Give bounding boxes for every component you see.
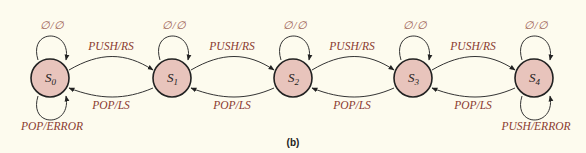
loop-label-s3: ∅/∅ bbox=[403, 19, 426, 31]
s4-bottom-loop bbox=[521, 96, 551, 120]
loop-label-s2: ∅/∅ bbox=[283, 19, 306, 31]
push-rs-label-1: PUSH/RS bbox=[208, 40, 255, 52]
self-loop-labels: ∅/∅ ∅/∅ ∅/∅ ∅/∅ ∅/∅ bbox=[40, 19, 547, 31]
pop-ls-label-3: POP/LS bbox=[453, 99, 492, 111]
push-rs-label-0: PUSH/RS bbox=[87, 40, 134, 52]
loop-label-s1: ∅/∅ bbox=[162, 19, 185, 31]
state-sub: 3 bbox=[414, 77, 420, 87]
push-rs-label-2: PUSH/RS bbox=[328, 40, 375, 52]
loop-label-s4: ∅/∅ bbox=[524, 19, 547, 31]
pop-ls-label-1: POP/LS bbox=[212, 99, 251, 111]
state-s2: S2 bbox=[274, 59, 312, 97]
s0-bottom-loop bbox=[37, 96, 67, 120]
state-sub: 1 bbox=[174, 77, 179, 87]
state-diagram: ∅/∅ ∅/∅ ∅/∅ ∅/∅ ∅/∅ POP/ERROR PUSH/ERROR… bbox=[0, 0, 586, 153]
state-s3: S3 bbox=[394, 59, 432, 97]
state-sub: 4 bbox=[536, 77, 541, 87]
state-sub: 2 bbox=[295, 77, 300, 87]
state-s0: S0 bbox=[31, 59, 69, 97]
state-s4: S4 bbox=[515, 59, 553, 97]
state-sub: 0 bbox=[52, 77, 57, 87]
state-s1: S1 bbox=[153, 59, 191, 97]
figure-caption: (b) bbox=[287, 137, 300, 148]
forward-labels: PUSH/RS PUSH/RS PUSH/RS PUSH/RS bbox=[87, 40, 496, 52]
pop-error-label: POP/ERROR bbox=[20, 120, 83, 132]
push-rs-label-3: PUSH/RS bbox=[449, 40, 496, 52]
push-error-label: PUSH/ERROR bbox=[501, 120, 571, 132]
pop-ls-label-2: POP/LS bbox=[332, 99, 371, 111]
pop-ls-label-0: POP/LS bbox=[91, 99, 130, 111]
backward-labels: POP/LS POP/LS POP/LS POP/LS bbox=[91, 99, 492, 111]
loop-label-s0: ∅/∅ bbox=[40, 19, 63, 31]
